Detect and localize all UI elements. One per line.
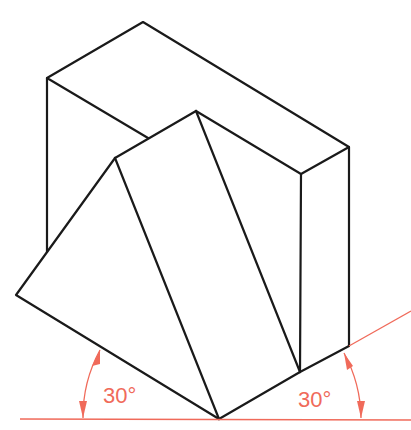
box-top-face <box>47 22 349 174</box>
wedge-back-edge <box>196 111 300 372</box>
horizontal-baseline <box>20 419 411 420</box>
right-angle-label: 30° <box>298 387 331 412</box>
left-arc-arrowhead-bottom <box>79 401 87 418</box>
wedge-prism <box>16 111 300 419</box>
wedge-top-ridge <box>115 111 196 158</box>
box-block <box>47 22 349 372</box>
right-30-degree-extension <box>349 311 411 346</box>
left-angle-label: 30° <box>103 383 136 408</box>
isometric-drawing: 30° 30° <box>0 0 411 430</box>
wedge-front-edge <box>115 158 219 419</box>
right-arc-arrowhead-bottom <box>357 401 365 418</box>
reference-lines <box>20 311 411 420</box>
box-front-vertical-edge <box>300 174 301 372</box>
wedge-bottom-right-edge <box>219 372 300 419</box>
left-arc-arrowhead-top <box>92 350 100 366</box>
right-arc-arrowhead-top <box>344 353 353 370</box>
box-bottom-right-edge <box>300 346 349 372</box>
